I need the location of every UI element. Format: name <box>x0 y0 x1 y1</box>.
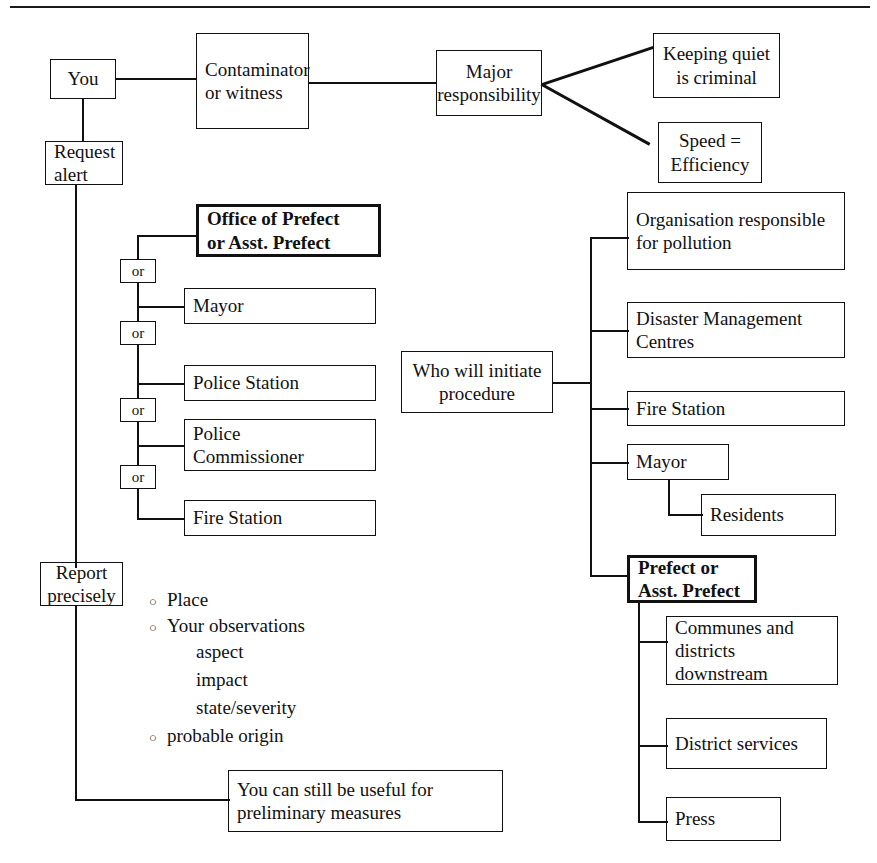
node-speed-equals-efficiency[interactable]: Speed = Efficiency <box>658 122 762 183</box>
node-district-services[interactable]: District services <box>666 718 827 769</box>
connector-or-ladder-seg-3 <box>137 422 139 465</box>
connector-mayor-to-residents-vertical <box>668 480 670 515</box>
connector-to-disaster-management <box>590 330 629 332</box>
list-item-label: probable origin <box>167 726 284 745</box>
bullet-circle-icon: ○ <box>149 621 167 634</box>
connector-to-police-commissioner <box>137 445 185 447</box>
node-fire-station-right[interactable]: Fire Station <box>627 391 845 426</box>
node-communes-and-districts-downstream[interactable]: Communes and districts downstream <box>666 616 838 685</box>
node-fire-station-left[interactable]: Fire Station <box>184 500 376 536</box>
connector-contaminator-to-major <box>309 82 436 84</box>
connector-or-ladder-seg-1 <box>137 283 139 321</box>
page-top-rule <box>10 6 870 8</box>
node-who-will-initiate-procedure[interactable]: Who will initiate procedure <box>401 351 553 413</box>
node-or-2: or <box>120 321 156 345</box>
node-police-station[interactable]: Police Station <box>184 365 376 401</box>
node-or-3: or <box>120 398 156 422</box>
connector-mayor-to-residents-horizontal <box>668 514 703 516</box>
connector-major-to-speed <box>541 83 651 145</box>
node-press[interactable]: Press <box>666 797 781 841</box>
node-mayor-left[interactable]: Mayor <box>184 288 376 324</box>
connector-report-precisely-to-still-useful <box>75 799 230 801</box>
connector-who-to-right-spine <box>553 382 591 384</box>
connector-report-precisely-down <box>75 606 77 800</box>
node-mayor-right[interactable]: Mayor <box>627 444 729 480</box>
node-prefect-or-asst-prefect[interactable]: Prefect or Asst. Prefect <box>627 555 757 603</box>
list-item-label: Place <box>167 590 208 609</box>
node-keeping-quiet-is-criminal[interactable]: Keeping quiet is criminal <box>653 33 780 98</box>
node-disaster-management-centres[interactable]: Disaster Management Centres <box>627 302 845 358</box>
node-request-alert[interactable]: Request alert <box>45 141 123 185</box>
node-you[interactable]: You <box>50 59 116 99</box>
connector-right-spine <box>590 237 592 575</box>
node-major-responsibility[interactable]: Major responsibility <box>436 50 542 116</box>
flowchart-canvas: You Contaminator or witness Major respon… <box>0 0 877 863</box>
connector-to-mayor-right <box>590 462 629 464</box>
bullet-circle-icon: ○ <box>149 595 167 608</box>
node-police-commissioner[interactable]: Police Commissioner <box>184 419 376 471</box>
node-or-4: or <box>120 465 156 489</box>
connector-request-alert-spine <box>75 185 77 568</box>
list-item: ○ Your observations <box>149 616 305 635</box>
node-you-can-still-be-useful[interactable]: You can still be useful for preliminary … <box>228 770 503 832</box>
connector-you-to-contaminator <box>116 78 196 80</box>
list-item-label: Your observations <box>167 616 305 635</box>
connector-to-press <box>638 821 668 823</box>
list-subitem: impact <box>196 670 305 689</box>
connector-major-to-keeping-quiet <box>542 46 654 86</box>
connector-to-office-of-prefect <box>137 235 197 237</box>
list-item: ○ Place <box>149 590 305 609</box>
connector-to-mayor-left <box>137 306 185 308</box>
bullet-circle-icon: ○ <box>149 731 167 744</box>
connector-to-prefect-or-asst <box>590 575 629 577</box>
connector-to-organisation-responsible <box>590 237 629 239</box>
connector-or-ladder-seg-0 <box>137 235 139 259</box>
node-office-of-prefect[interactable]: Office of Prefect or Asst. Prefect <box>196 204 381 257</box>
list-item: ○ probable origin <box>149 726 305 745</box>
connector-you-to-request-alert <box>82 99 84 141</box>
connector-to-police-station <box>137 383 185 385</box>
connector-to-district-services <box>638 745 668 747</box>
node-report-precisely[interactable]: Report precisely <box>40 562 123 606</box>
report-details-list: ○ Place ○ Your observations aspect impac… <box>149 590 305 752</box>
connector-or-ladder-seg-2 <box>137 345 139 398</box>
node-residents[interactable]: Residents <box>701 494 836 536</box>
list-subitem: aspect <box>196 642 305 661</box>
connector-or-ladder-seg-4 <box>137 489 139 518</box>
connector-to-fire-station-right <box>590 408 629 410</box>
node-contaminator-or-witness[interactable]: Contaminator or witness <box>196 33 309 129</box>
node-or-1: or <box>120 259 156 283</box>
connector-to-fire-station-left <box>137 518 185 520</box>
list-subitem: state/severity <box>196 698 305 717</box>
node-organisation-responsible[interactable]: Organisation responsible for pollution <box>627 192 845 270</box>
connector-prefect-downstream-spine <box>638 603 640 822</box>
connector-to-communes <box>638 641 668 643</box>
